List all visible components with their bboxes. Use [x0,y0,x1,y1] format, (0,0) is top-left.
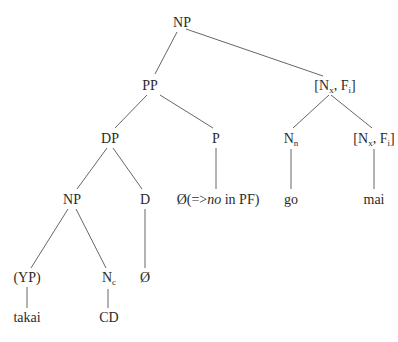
node-takai: takai [13,310,40,325]
node-p-null: Ø(=>no in PF) [177,192,260,208]
edge-nxfi-top-to-nxfi-low [331,95,372,128]
node-d: D [140,192,150,207]
node-cd: CD [99,310,118,325]
tree-edges [27,29,374,308]
edge-pp-to-p [160,95,213,128]
syntax-tree-diagram: NP PP [Nx, Fi] DP P Nn [Nx, Fi] NP D Ø(=… [0,0,398,342]
edge-dp-to-np-inner [77,148,107,189]
edge-nxfi-top-to-nn [293,95,329,128]
edge-dp-to-d [113,148,142,189]
node-n-c: Nc [102,270,116,287]
edge-np-root-to-pp [155,32,177,74]
node-p: P [212,131,220,146]
node-go: go [284,192,298,207]
node-np-root: NP [173,15,191,30]
node-pp: PP [142,78,158,93]
edge-np-inner-to-nc [76,209,106,268]
node-mai: mai [364,192,385,207]
edge-np-inner-to-yp [31,209,68,268]
node-dp: DP [101,131,119,146]
node-yp: (YP) [13,270,41,286]
edge-pp-to-dp [115,95,147,128]
edge-np-root-to-nxfi-top [186,29,323,76]
node-d-null: Ø [140,270,150,285]
node-nx-fi-top: [Nx, Fi] [314,78,355,95]
node-nx-fi-low: [Nx, Fi] [353,131,394,148]
node-np-inner: NP [63,192,81,207]
tree-labels: NP PP [Nx, Fi] DP P Nn [Nx, Fi] NP D Ø(=… [13,15,394,325]
node-n-n: Nn [284,131,299,148]
